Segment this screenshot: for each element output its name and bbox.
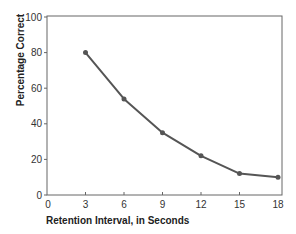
y-tick-label: 60 bbox=[31, 83, 43, 94]
series-line bbox=[86, 53, 279, 178]
data-point-marker bbox=[160, 130, 165, 135]
plot-frame bbox=[47, 16, 282, 195]
y-axis-title: Percentage Correct bbox=[15, 13, 26, 106]
chart: 0 20 40 60 80 100 0 3 6 9 12 15 18 Reten… bbox=[0, 0, 296, 234]
y-tick-label: 100 bbox=[25, 12, 42, 23]
data-point-marker bbox=[199, 153, 204, 158]
x-tick-label: 9 bbox=[160, 199, 166, 210]
data-point-marker bbox=[276, 175, 281, 180]
y-tick-label: 80 bbox=[31, 47, 43, 58]
x-tick-label: 15 bbox=[234, 199, 246, 210]
x-tick-label: 3 bbox=[83, 199, 89, 210]
data-point-marker bbox=[122, 96, 127, 101]
x-axis-title: Retention Interval, in Seconds bbox=[46, 215, 190, 226]
y-tick-label: 20 bbox=[31, 154, 43, 165]
x-tick-label: 12 bbox=[195, 199, 207, 210]
data-point-marker bbox=[83, 50, 88, 55]
x-tick-label: 0 bbox=[45, 199, 51, 210]
x-tick-label: 6 bbox=[121, 199, 127, 210]
y-tick-label: 0 bbox=[36, 190, 42, 201]
data-point-marker bbox=[237, 171, 242, 176]
x-tick-label: 18 bbox=[272, 199, 284, 210]
data-series bbox=[83, 50, 281, 180]
y-axis: 0 20 40 60 80 100 bbox=[25, 12, 47, 201]
y-tick-label: 40 bbox=[31, 118, 43, 129]
